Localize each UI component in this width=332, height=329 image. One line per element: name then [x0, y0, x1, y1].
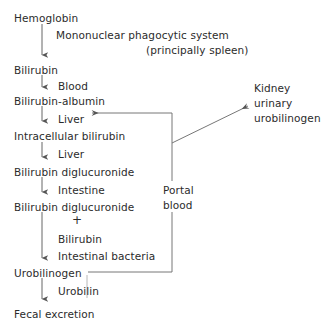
edge-label-intestine: Intestine — [58, 184, 105, 196]
node-bilirubin-diglucuronide-2: Bilirubin diglucuronide — [14, 201, 134, 213]
node-urinary: urinary — [254, 97, 292, 109]
node-fecal-excretion: Fecal excretion — [14, 308, 95, 320]
node-portal: Portal — [163, 184, 194, 196]
node-hemoglobin: Hemoglobin — [14, 12, 78, 24]
node-bilirubin-albumin: Bilirubin-albumin — [14, 95, 105, 107]
edge-label-free-bilirubin: Bilirubin — [58, 233, 102, 245]
node-bilirubin-diglucuronide-1: Bilirubin diglucuronide — [14, 166, 134, 178]
edge-label-mononuclear-phagocytic-system: Mononuclear phagocytic system — [56, 29, 229, 41]
edge-label-principally-spleen: (principally spleen) — [146, 44, 249, 56]
node-intracellular-bilirubin: Intracellular bilirubin — [14, 130, 125, 142]
node-urobilinogen: Urobilinogen — [14, 267, 82, 279]
node-kidney: Kidney — [254, 82, 290, 94]
edge-label-liver-2: Liver — [58, 148, 84, 160]
arrow-portal-blood-to-kidney — [172, 106, 248, 143]
edge-label-intestinal-bacteria: Intestinal bacteria — [58, 250, 155, 262]
edge-label-plus: + — [72, 214, 82, 226]
edge-label-liver-1: Liver — [58, 113, 84, 125]
node-bilirubin: Bilirubin — [14, 64, 58, 76]
node-portal-blood: blood — [163, 199, 193, 211]
edge-label-blood: Blood — [58, 80, 88, 92]
node-urinary-urobilinogen: urobilinogen — [254, 112, 321, 124]
bilirubin-metabolism-diagram: Hemoglobin Bilirubin Bilirubin-albumin I… — [0, 0, 332, 329]
edge-label-urobilin: Urobilin — [58, 285, 99, 297]
